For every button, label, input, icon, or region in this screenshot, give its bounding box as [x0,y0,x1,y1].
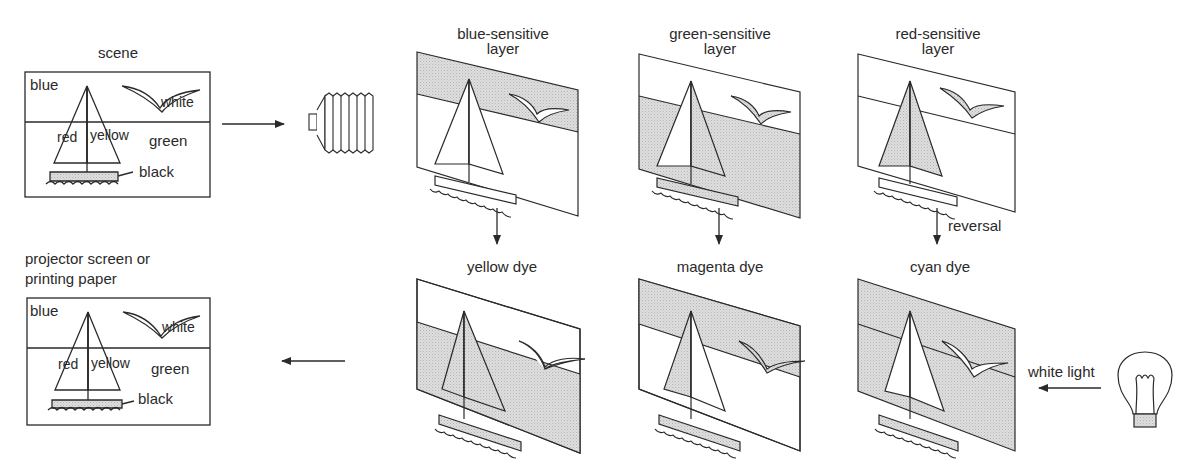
scene-heading: scene [98,45,138,60]
scene-label-hull: black [139,164,174,179]
light-bulb-icon [1118,352,1172,427]
dye-title-cyan: cyan dye [910,259,970,274]
camera-bellows-icon [309,93,373,153]
diagram-canvas [0,0,1196,465]
output-label-hull: black [138,391,173,406]
scene-label-sky: blue [30,77,58,92]
scene-label-sea: green [149,133,187,148]
layer-title-red-line1: red-sensitive [895,26,980,41]
scene-label-right-sail: yellow [90,128,129,143]
layer-title-blue-line2: layer [487,41,520,56]
panel-red-sensitive-layer [858,54,1015,219]
output-label-sky: blue [30,303,58,318]
dye-title-magenta: magenta dye [677,259,764,274]
panel-blue-sensitive-layer [417,52,578,217]
scene-label-left-sail: red [57,130,77,145]
dye-title-yellow: yellow dye [467,259,537,274]
panel-magenta-dye [639,279,805,458]
scene-label-bird: white [161,95,194,110]
output-heading-line1: projector screen or [25,251,150,266]
reversal-note: reversal [948,218,1001,233]
layer-title-green-line2: layer [704,41,737,56]
output-heading-line2: printing paper [25,271,117,286]
output-label-bird: white [162,320,195,335]
layer-title-red-line2: layer [922,41,955,56]
layer-title-blue-line1: blue-sensitive [457,26,549,41]
white-light-label: white light [1028,364,1095,379]
output-label-sea: green [151,361,189,376]
panel-yellow-dye [417,279,585,458]
output-label-right-sail: yellow [91,356,130,371]
layer-title-green-line1: green-sensitive [669,26,771,41]
output-label-left-sail: red [58,357,78,372]
panel-green-sensitive-layer [639,54,800,219]
panel-cyan-dye [858,279,1015,458]
